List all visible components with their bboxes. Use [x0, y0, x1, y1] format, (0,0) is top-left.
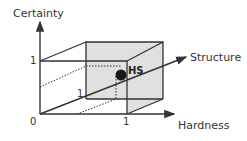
hs-point-label: HS	[128, 66, 144, 76]
structure-axis-label: Structure	[190, 52, 241, 63]
hardness-tick-1: 1	[123, 117, 129, 127]
certainty-tick-1: 1	[30, 56, 36, 66]
hardness-axis-label: Hardness	[178, 120, 230, 131]
structure-tick-1: 1	[77, 89, 83, 99]
hs-point	[116, 70, 127, 81]
origin-tick: 0	[30, 117, 36, 127]
certainty-axis-label: Certainty	[13, 8, 64, 19]
